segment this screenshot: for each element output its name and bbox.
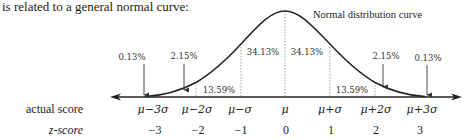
pct-right-0: 34.13%	[291, 47, 323, 57]
pct-left-tail: 0.13%	[118, 52, 145, 62]
pct-left-0: 34.13%	[247, 47, 279, 57]
z-score-tick: 1	[328, 123, 334, 137]
actual-score-tick: μ+σ	[318, 103, 342, 116]
z-score-tick: 3	[417, 123, 423, 137]
pct-right-tail: 0.13%	[414, 53, 441, 63]
pct-left-1: 13.59%	[203, 85, 235, 95]
pct-right-2: 2.15%	[372, 51, 399, 61]
actual-score-tick: μ+3σ	[407, 103, 438, 116]
actual-score-tick: μ−3σ	[138, 103, 169, 116]
pct-left-2: 2.15%	[170, 51, 197, 61]
actual-score-ticks: μ−3σ μ−2σ μ−σ μ μ+σ μ+2σ μ+3σ	[138, 103, 438, 116]
normal-distribution-diagram: Normal distribution curve 0.13% 2.15% 13…	[0, 0, 465, 139]
z-score-tick: −3	[149, 123, 162, 137]
pointer-arrows	[144, 64, 427, 95]
z-score-tick: −1	[235, 123, 248, 137]
z-score-tick: −2	[192, 123, 205, 137]
z-score-tick: 2	[373, 123, 379, 137]
pct-right-1: 13.59%	[336, 85, 368, 95]
actual-score-tick: μ	[281, 103, 288, 116]
curve-title: Normal distribution curve	[313, 9, 422, 20]
actual-score-tick: μ−2σ	[182, 103, 213, 116]
z-score-ticks: −3 −2 −1 0 1 2 3	[149, 123, 423, 137]
actual-score-tick: μ−σ	[228, 103, 252, 116]
z-score-tick: 0	[283, 123, 289, 137]
row-label-actual-score: actual score	[26, 102, 83, 116]
row-label-z-score: z-score	[48, 123, 84, 137]
actual-score-tick: μ+2σ	[361, 103, 392, 116]
